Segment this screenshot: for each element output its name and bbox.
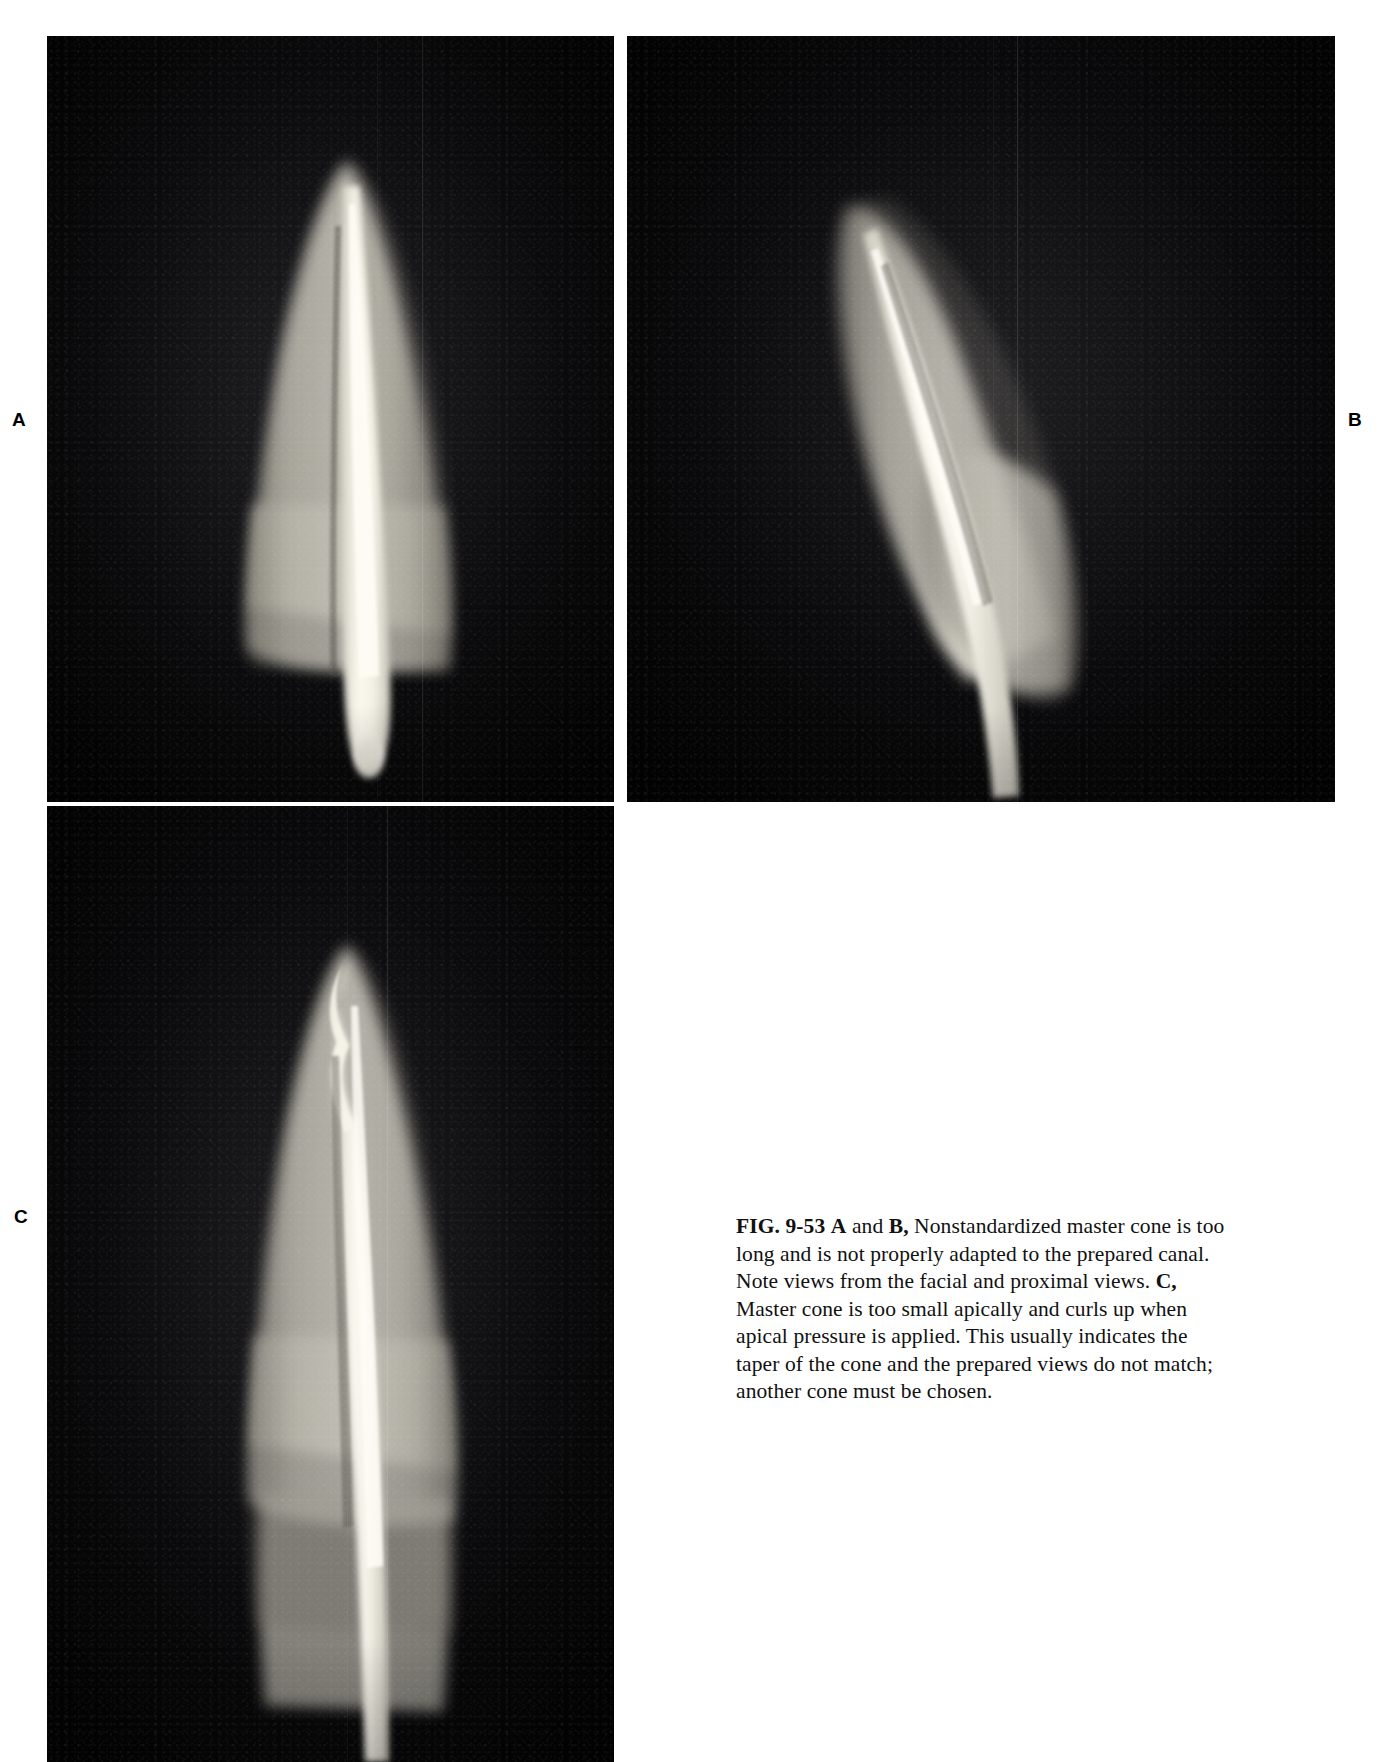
figure-caption: FIG. 9-53 A and B, Nonstandardized maste…	[736, 1213, 1234, 1406]
caption-part-b: B,	[889, 1214, 909, 1238]
radiograph-panel-b	[627, 36, 1335, 802]
caption-part-a: A	[831, 1214, 847, 1238]
radiograph-image-b	[627, 36, 1335, 802]
radiograph-panel-c	[47, 806, 614, 1762]
radiograph-image-a	[47, 36, 614, 802]
radiograph-panel-a	[47, 36, 614, 802]
panel-label-a: A	[12, 410, 26, 429]
panel-label-b: B	[1348, 410, 1362, 429]
caption-figure-number: FIG. 9-53	[736, 1214, 825, 1238]
caption-and-word: and	[846, 1214, 888, 1238]
radiograph-image-c	[47, 806, 614, 1762]
caption-segment-c: Master cone is too small apically and cu…	[736, 1297, 1213, 1404]
panel-label-c: C	[14, 1207, 28, 1226]
figure-plate: A B C	[0, 0, 1388, 1762]
caption-part-c: C,	[1156, 1269, 1177, 1293]
